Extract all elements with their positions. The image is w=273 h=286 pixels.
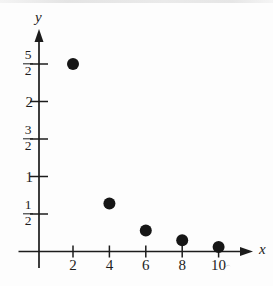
y-tick-label: 52 xyxy=(23,49,33,78)
y-tick-label: 12 xyxy=(23,199,33,228)
x-axis-arrowhead xyxy=(240,247,253,256)
x-axis-label: x xyxy=(259,241,266,257)
y-tick-label: 2 xyxy=(26,94,34,109)
fraction-label: 32 xyxy=(23,124,33,152)
y-tick-label: 32 xyxy=(23,124,33,153)
data-point xyxy=(140,225,152,237)
fraction-label: 52 xyxy=(23,49,33,77)
x-tick-label: 10 xyxy=(211,258,226,273)
data-point xyxy=(103,198,115,210)
scatter-plot-figure: y x 12132252246810 xyxy=(0,0,273,286)
y-axis-arrowhead xyxy=(35,29,44,42)
x-tick-label: 2 xyxy=(69,258,77,273)
data-point xyxy=(67,58,79,70)
x-tick-label: 8 xyxy=(178,258,186,273)
x-tick-label: 6 xyxy=(142,258,150,273)
data-point xyxy=(176,234,188,246)
x-tick-label: 4 xyxy=(106,258,114,273)
y-axis-label: y xyxy=(35,9,42,25)
data-point xyxy=(213,241,225,253)
plot-canvas xyxy=(0,0,273,286)
y-tick-label: 1 xyxy=(26,169,34,184)
fraction-label: 12 xyxy=(23,199,33,227)
